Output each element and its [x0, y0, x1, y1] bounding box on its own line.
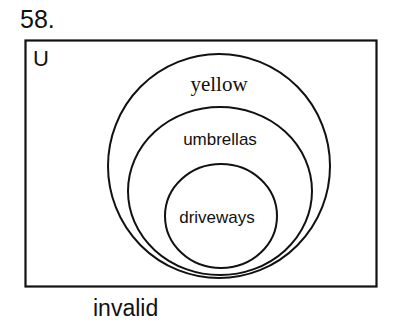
venn-diagram: U yellow umbrellas driveways — [0, 0, 394, 330]
validity-caption: invalid — [93, 295, 158, 322]
set-driveways-label: driveways — [179, 208, 255, 227]
universe-label: U — [33, 46, 49, 71]
set-yellow-label: yellow — [190, 72, 248, 96]
set-umbrellas-label: umbrellas — [183, 130, 257, 149]
